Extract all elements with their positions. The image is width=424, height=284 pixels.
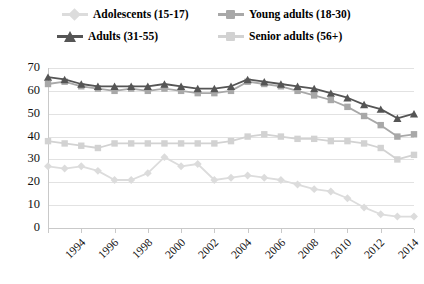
data-point-square <box>45 138 51 144</box>
y-axis-tick-label: 30 <box>6 151 40 166</box>
x-axis-tick-label: 2010 <box>329 236 354 261</box>
data-point-diamond <box>393 213 401 221</box>
x-axis-tick-mark <box>314 229 315 233</box>
x-axis-tick-mark <box>81 229 82 233</box>
x-axis-tick-label: 2004 <box>229 236 254 261</box>
y-axis-tick-label: 70 <box>6 60 40 75</box>
x-axis-tick-mark <box>281 229 282 233</box>
data-point-square <box>411 152 417 158</box>
x-axis-tick-mark <box>248 229 249 233</box>
data-point-diamond <box>294 181 302 189</box>
legend-square-1 <box>226 10 235 19</box>
data-point-square <box>195 140 201 146</box>
chart-legend: Adolescents (15-17) Young adults (18-30)… <box>0 6 424 52</box>
data-point-square <box>111 140 117 146</box>
legend-label-adults: Adults (31-55) <box>88 30 158 42</box>
x-axis-tick-label: 2000 <box>163 236 188 261</box>
data-point-square <box>78 143 84 149</box>
x-axis-tick-label: 1996 <box>96 236 121 261</box>
data-point-square <box>311 92 317 98</box>
series-line <box>48 157 414 216</box>
x-axis-tick-label: 2008 <box>296 236 321 261</box>
data-point-diamond <box>327 187 335 195</box>
y-axis-tick-label: 0 <box>6 220 40 235</box>
legend-item-senior-adults[interactable]: Senior adults (56+) <box>218 30 342 42</box>
x-axis-tick-mark <box>381 229 382 233</box>
legend-marker-square-icon <box>218 9 244 20</box>
x-axis-tick-mark <box>181 229 182 233</box>
data-point-square <box>145 140 151 146</box>
data-point-square <box>45 81 51 87</box>
data-point-square <box>328 138 334 144</box>
x-axis-tick-mark <box>414 229 415 233</box>
data-point-square <box>378 145 384 151</box>
plot-area: 0102030405060701994199619982000200220042… <box>48 68 414 228</box>
data-point-diamond <box>377 210 385 218</box>
data-point-square <box>361 113 367 119</box>
series-senior-adults-56 <box>45 131 417 163</box>
data-point-diamond <box>94 167 102 175</box>
legend-label-adolescents: Adolescents (15-17) <box>93 8 189 20</box>
data-point-diamond <box>227 174 235 182</box>
data-point-diamond <box>310 185 318 193</box>
data-point-diamond <box>277 176 285 184</box>
data-point-diamond <box>127 176 135 184</box>
data-point-diamond <box>44 162 52 170</box>
data-point-diamond <box>244 171 252 179</box>
x-axis-tick-mark <box>48 229 49 233</box>
data-point-square <box>178 140 184 146</box>
data-point-diamond <box>360 203 368 211</box>
data-point-square <box>394 156 400 162</box>
data-point-diamond <box>61 165 69 173</box>
data-point-diamond <box>177 162 185 170</box>
legend-item-adults[interactable]: Adults (31-55) <box>57 30 158 42</box>
series-layer <box>48 68 414 228</box>
data-point-diamond <box>343 194 351 202</box>
y-axis-tick-label: 40 <box>6 129 40 144</box>
data-point-square <box>128 140 134 146</box>
data-point-square <box>261 131 267 137</box>
data-point-square <box>211 140 217 146</box>
y-axis-tick-label: 50 <box>6 106 40 121</box>
y-axis-tick-label: 20 <box>6 174 40 189</box>
data-point-diamond <box>410 213 418 221</box>
legend-marker-diamond-icon <box>62 9 88 20</box>
series-adolescents-15-17 <box>44 153 418 220</box>
data-point-square <box>278 133 284 139</box>
legend-item-young-adults[interactable]: Young adults (18-30) <box>218 8 351 20</box>
line-chart: Adolescents (15-17) Young adults (18-30)… <box>0 0 424 284</box>
data-point-square <box>361 140 367 146</box>
data-point-square <box>344 104 350 110</box>
data-point-square <box>411 131 417 137</box>
x-axis-tick-mark <box>148 229 149 233</box>
x-axis-tick-mark <box>115 229 116 233</box>
data-point-square <box>244 133 250 139</box>
data-point-diamond <box>111 176 119 184</box>
x-axis-tick-mark <box>214 229 215 233</box>
x-axis-tick-mark <box>347 229 348 233</box>
data-point-square <box>328 97 334 103</box>
x-axis-tick-label: 2012 <box>362 236 387 261</box>
data-point-diamond <box>77 162 85 170</box>
data-point-square <box>228 138 234 144</box>
legend-marker-triangle-icon <box>57 31 83 42</box>
legend-marker-square-icon <box>218 31 244 42</box>
x-axis-tick-label: 2002 <box>196 236 221 261</box>
x-axis-tick-label: 2006 <box>262 236 287 261</box>
x-axis <box>48 228 414 229</box>
y-axis-tick-label: 10 <box>6 197 40 212</box>
data-point-square <box>344 138 350 144</box>
data-point-square <box>294 136 300 142</box>
legend-diamond-0 <box>68 8 81 21</box>
data-point-square <box>311 136 317 142</box>
data-point-square <box>161 140 167 146</box>
legend-item-adolescents[interactable]: Adolescents (15-17) <box>62 8 189 20</box>
legend-label-young-adults: Young adults (18-30) <box>249 8 351 20</box>
x-axis-tick-label: 2014 <box>395 236 420 261</box>
y-axis-tick-label: 60 <box>6 83 40 98</box>
data-point-square <box>378 122 384 128</box>
x-axis-tick-label: 1994 <box>63 236 88 261</box>
x-axis-tick-label: 1998 <box>129 236 154 261</box>
legend-label-senior-adults: Senior adults (56+) <box>249 30 342 42</box>
legend-triangle-2 <box>64 31 76 42</box>
